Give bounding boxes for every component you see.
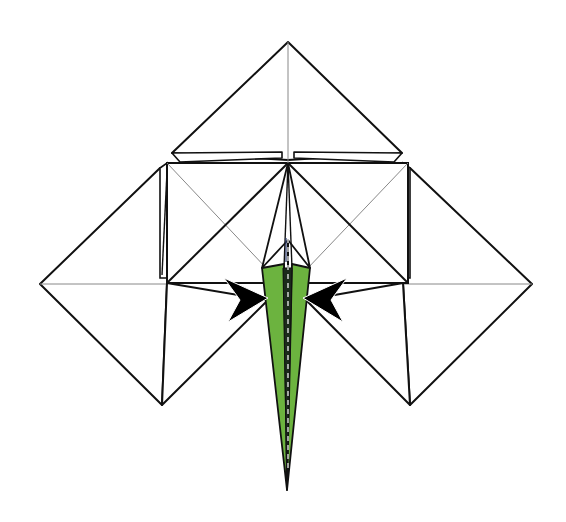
- top-kite-flap: [172, 42, 402, 163]
- left-side-kite: [40, 163, 167, 405]
- right-side-kite: [403, 163, 532, 405]
- origami-diagram: Push the sides in (inside-reverse / narr…: [0, 0, 566, 522]
- right-square-flap: [288, 163, 408, 283]
- left-square-flap: [167, 163, 288, 283]
- green-stem: [262, 238, 310, 490]
